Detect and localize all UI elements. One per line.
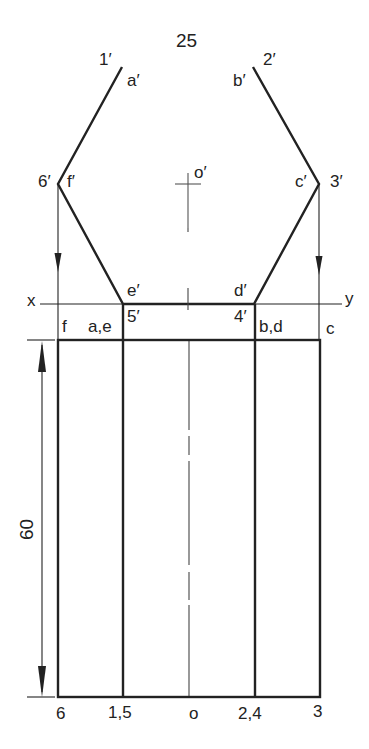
base-label-3: 3	[313, 703, 322, 720]
vertex-label-1: 1′	[99, 51, 112, 68]
center-label-o: o′	[194, 164, 207, 181]
reference-label-y: y	[345, 290, 354, 307]
vertex-label-a: a′	[127, 72, 140, 89]
front-label-c: c	[326, 320, 335, 337]
base-label-15: 1,5	[108, 704, 132, 721]
front-label-ae: a,e	[88, 318, 112, 335]
vertex-label-6: 6′	[38, 173, 51, 190]
width-dimension-label: 25	[176, 31, 197, 50]
projection-drawing: 25 1′ a′ 2′ b′ 6′ f′ c′ 3′ o′ e′ 5′ d′ 4…	[0, 0, 369, 749]
vertex-label-c: c′	[295, 173, 307, 190]
arrow-down-icon	[316, 256, 323, 275]
vertex-label-f: f′	[67, 173, 75, 190]
projector-arrow-icons	[55, 253, 323, 275]
base-label-6: 6	[56, 705, 65, 722]
vertex-label-2: 2′	[263, 51, 276, 68]
drawing-canvas	[0, 0, 369, 749]
center-line	[188, 228, 189, 697]
reference-label-x: x	[27, 292, 36, 309]
arrow-down-icon	[55, 253, 62, 272]
base-label-24: 2,4	[238, 705, 262, 722]
vertex-label-3: 3′	[330, 173, 343, 190]
front-label-bd: b,d	[259, 318, 283, 335]
vertex-label-e: e′	[127, 282, 140, 299]
height-dimension-label: 60	[17, 519, 36, 540]
base-label-o: o	[189, 705, 198, 722]
front-label-f: f	[62, 318, 67, 335]
arrow-down-icon	[38, 666, 46, 697]
vertex-label-5: 5′	[127, 308, 140, 325]
vertex-label-b: b′	[233, 72, 246, 89]
vertex-label-4: 4′	[234, 308, 247, 325]
arrow-up-icon	[38, 341, 46, 372]
vertex-label-d: d′	[234, 282, 247, 299]
